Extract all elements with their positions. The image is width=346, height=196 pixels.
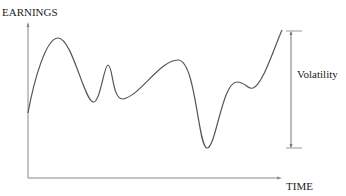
earnings-curve (28, 30, 282, 148)
x-axis-arrow-icon (277, 177, 282, 180)
arrow-up-icon (290, 31, 293, 35)
y-axis-arrow-icon (27, 22, 30, 27)
arrow-down-icon (290, 144, 293, 148)
earnings-volatility-diagram (0, 0, 346, 196)
